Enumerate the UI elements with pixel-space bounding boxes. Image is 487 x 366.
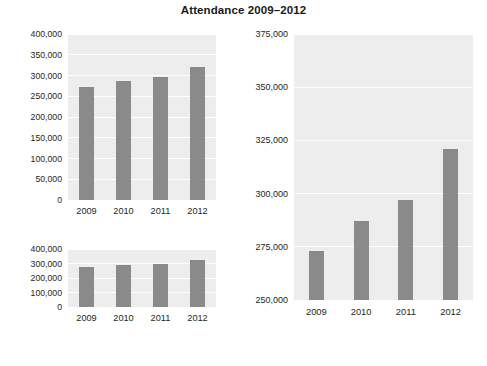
y-axis-tick-label: 300,000: [232, 189, 288, 198]
y-axis-tick-label: 375,000: [232, 30, 288, 39]
y-axis-tick-label: 275,000: [232, 242, 288, 251]
gridline: [68, 249, 216, 250]
bar-2010: [354, 221, 369, 300]
bar-2011: [153, 77, 168, 200]
bar-2012: [190, 260, 205, 307]
plot-area-right: [294, 34, 473, 300]
x-axis-tick-label: 2012: [176, 206, 220, 216]
bar-2012: [443, 149, 458, 300]
bar-2009: [79, 267, 94, 307]
y-axis-tick-label: 150,000: [0, 133, 62, 142]
bar-2010: [116, 265, 131, 307]
plot-area-bottom-left: [68, 249, 216, 307]
y-axis-tick-label: 250,000: [232, 296, 288, 305]
y-axis-tick-label: 350,000: [0, 50, 62, 59]
chart-bottom-left: 0100,000200,000300,000400,00020092010201…: [0, 243, 228, 333]
x-axis-tick-label: 2010: [339, 306, 383, 317]
gridline: [68, 34, 216, 35]
plot-area-top-left: [68, 34, 216, 200]
y-axis-tick-label: 400,000: [0, 30, 62, 39]
y-axis-tick-label: 100,000: [0, 154, 62, 163]
bar-2009: [309, 251, 324, 300]
x-axis-tick-label: 2012: [176, 313, 220, 323]
x-axis-tick-label: 2012: [429, 306, 473, 317]
bar-2011: [153, 264, 168, 307]
y-axis-tick-label: 300,000: [0, 259, 62, 268]
y-axis-tick-label: 200,000: [0, 113, 62, 122]
gridline: [68, 54, 216, 55]
y-axis-tick-label: 300,000: [0, 71, 62, 80]
y-axis-tick-label: 50,000: [0, 175, 62, 184]
y-axis-tick-label: 100,000: [0, 288, 62, 297]
x-axis-tick-label: 2011: [384, 306, 428, 317]
page-title: Attendance 2009–2012: [0, 4, 487, 16]
gridline: [294, 34, 473, 35]
chart-top-left: 050,000100,000150,000200,000250,000300,0…: [0, 28, 228, 224]
y-axis-tick-label: 0: [0, 196, 62, 205]
y-axis-tick-label: 0: [0, 303, 62, 312]
gridline: [294, 140, 473, 141]
y-axis-tick-label: 250,000: [0, 92, 62, 101]
y-axis-tick-label: 350,000: [232, 83, 288, 92]
bar-2011: [398, 200, 413, 300]
y-axis-tick-label: 200,000: [0, 274, 62, 283]
bar-2012: [190, 67, 205, 200]
bar-2010: [116, 81, 131, 200]
x-axis-tick-label: 2009: [294, 306, 338, 317]
y-axis-tick-label: 400,000: [0, 245, 62, 254]
bar-2009: [79, 87, 94, 200]
chart-right: 250,000275,000300,000325,000350,000375,0…: [232, 28, 487, 333]
y-axis-tick-label: 325,000: [232, 136, 288, 145]
gridline: [294, 87, 473, 88]
